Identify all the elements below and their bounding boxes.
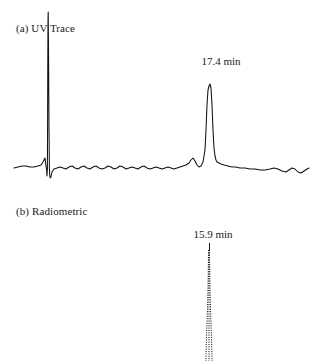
trace-series-1 <box>209 250 212 361</box>
uv-peak-retention-label: 17.4 min <box>186 55 256 67</box>
radiometric-trace-panel <box>0 195 325 361</box>
uv-panel-label: (a) UV Trace <box>16 22 75 34</box>
radiometric-peak-retention-label: 15.9 min <box>178 228 248 240</box>
radiometric-trace-plot <box>0 195 325 361</box>
trace-series-0 <box>206 250 209 361</box>
chromatogram-figure: (a) UV Trace 17.4 min (b) Radiometric 15… <box>0 0 325 361</box>
radiometric-peak-tick-icon <box>209 243 210 250</box>
trace-series-0 <box>14 12 309 178</box>
radiometric-panel-label: (b) Radiometric <box>16 205 87 217</box>
